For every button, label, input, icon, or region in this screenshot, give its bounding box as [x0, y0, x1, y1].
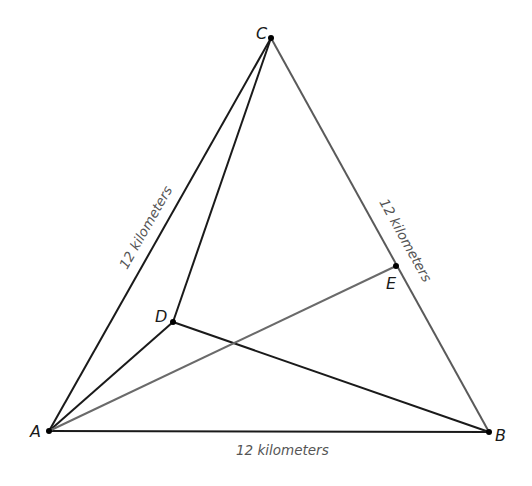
segment-AC: [49, 38, 271, 431]
point-label-D: D: [155, 307, 167, 326]
segment-CB: [271, 38, 489, 432]
segment-AB: [49, 431, 489, 432]
segment-AE: [49, 266, 396, 431]
point-E-dot: [393, 263, 399, 269]
point-label-A: A: [29, 422, 41, 441]
segment-DC: [173, 38, 271, 322]
point-B-dot: [486, 429, 492, 435]
side-label-AB: 12 kilometers: [236, 442, 329, 458]
point-label-C: C: [256, 24, 268, 43]
segment-AD: [49, 322, 173, 431]
point-label-E: E: [386, 274, 397, 293]
point-A-dot: [46, 428, 52, 434]
point-D-dot: [170, 319, 176, 325]
triangle-diagram: A B C D E 12 kilometers 12 kilometers 12…: [0, 0, 532, 486]
diagram-svg: A B C D E 12 kilometers 12 kilometers 12…: [0, 0, 532, 486]
point-C-dot: [268, 35, 274, 41]
segment-DB: [173, 322, 489, 432]
point-label-B: B: [495, 426, 506, 445]
